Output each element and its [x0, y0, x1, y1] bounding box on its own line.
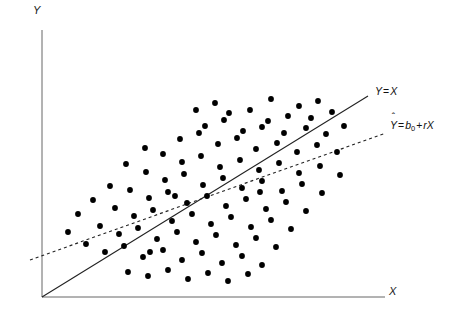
data-point: [268, 96, 274, 102]
data-point: [121, 243, 127, 249]
data-point: [177, 136, 183, 142]
data-point: [65, 229, 71, 235]
data-point: [283, 199, 289, 205]
data-point: [281, 130, 287, 136]
data-point: [208, 221, 214, 227]
data-point: [263, 206, 269, 212]
data-point: [172, 193, 178, 199]
data-point: [296, 103, 302, 109]
data-point: [219, 260, 225, 266]
data-point: [204, 193, 210, 199]
data-point: [259, 178, 265, 184]
data-point: [247, 107, 253, 113]
data-point: [107, 183, 113, 189]
data-point: [212, 100, 218, 106]
y-axis-label: Y: [33, 4, 41, 16]
data-point: [205, 270, 211, 276]
data-point: [268, 217, 274, 223]
data-point: [303, 208, 309, 214]
data-point: [253, 146, 259, 152]
data-point: [90, 197, 96, 203]
data-point: [217, 164, 223, 170]
data-point: [165, 189, 171, 195]
data-point: [248, 224, 254, 230]
regression-equals: =: [397, 119, 405, 131]
data-point: [125, 269, 131, 275]
data-point: [116, 231, 122, 237]
data-point: [200, 182, 206, 188]
data-point: [315, 98, 321, 104]
data-point: [239, 185, 245, 191]
data-point: [253, 235, 259, 241]
data-point: [174, 229, 180, 235]
data-point: [329, 109, 335, 115]
data-point: [75, 211, 81, 217]
regression-intercept-subscript: 0: [411, 124, 415, 133]
data-point: [303, 125, 309, 131]
data-point: [234, 135, 240, 141]
data-point: [169, 218, 175, 224]
data-point: [145, 273, 151, 279]
regression-x-symbol: X: [427, 119, 434, 131]
data-point: [127, 187, 133, 193]
hat-accent-icon: ˆ: [392, 113, 395, 123]
x-axis-label: X: [389, 285, 397, 297]
data-point: [285, 113, 291, 119]
data-point: [276, 160, 282, 166]
data-point: [97, 223, 103, 229]
data-point: [193, 239, 199, 245]
data-point: [245, 271, 251, 277]
data-point: [154, 236, 160, 242]
data-point: [220, 175, 226, 181]
data-point: [228, 214, 234, 220]
data-point: [240, 128, 246, 134]
data-point: [259, 124, 265, 130]
data-point: [239, 253, 245, 259]
data-point: [147, 249, 153, 255]
data-point: [123, 161, 129, 167]
data-point: [259, 262, 265, 268]
data-point: [221, 117, 227, 123]
data-point: [257, 189, 263, 195]
identity-x-symbol: X: [390, 85, 397, 97]
data-point: [199, 250, 205, 256]
data-point: [102, 249, 108, 255]
data-point: [112, 205, 118, 211]
data-point: [314, 142, 320, 148]
data-point: [308, 115, 314, 121]
data-point: [223, 203, 229, 209]
y-hat-symbol: ˆY: [390, 119, 397, 131]
data-point: [196, 130, 202, 136]
data-point: [334, 149, 340, 155]
data-point: [226, 110, 232, 116]
data-point: [150, 207, 156, 213]
data-point: [265, 118, 271, 124]
data-points: [65, 96, 347, 284]
identity-equals: =: [382, 85, 390, 97]
data-point: [83, 241, 89, 247]
data-point: [237, 157, 243, 163]
data-point: [198, 153, 204, 159]
data-point: [185, 276, 191, 282]
data-point: [140, 254, 146, 260]
data-point: [179, 159, 185, 165]
data-point: [273, 244, 279, 250]
regression-line-label: ˆY=b0+rX: [390, 119, 434, 131]
data-point: [299, 181, 305, 187]
data-point: [135, 225, 141, 231]
data-point: [294, 149, 300, 155]
data-point: [165, 267, 171, 273]
data-point: [184, 200, 190, 206]
axes: [42, 30, 385, 297]
data-point: [162, 177, 168, 183]
data-point: [131, 213, 137, 219]
data-point: [181, 171, 187, 177]
data-point: [274, 140, 280, 146]
data-point: [319, 190, 325, 196]
data-point: [213, 232, 219, 238]
data-point: [142, 145, 148, 151]
data-point: [296, 170, 302, 176]
data-point: [202, 123, 208, 129]
data-point: [215, 141, 221, 147]
identity-y-symbol: Y: [375, 85, 382, 97]
